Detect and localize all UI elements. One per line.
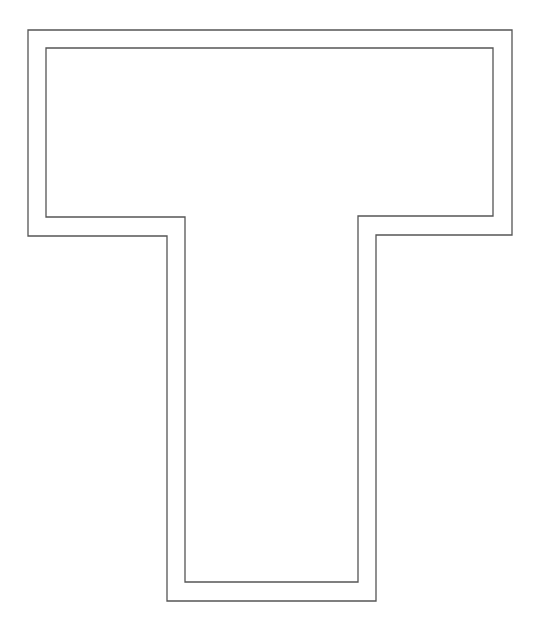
inner-t-outline (46, 48, 493, 582)
outer-t-outline (28, 30, 512, 601)
t-shape-figure (0, 0, 544, 635)
